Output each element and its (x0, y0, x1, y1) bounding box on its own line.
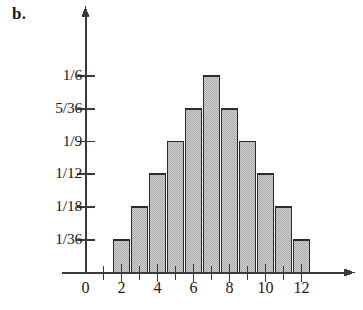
x-axis-tick-label: 0 (71, 279, 101, 297)
x-axis-tick-label: 10 (251, 279, 281, 297)
y-axis-tick-label: 1/36 (55, 231, 82, 246)
histogram-bar (240, 142, 256, 273)
y-axis-tick-label: 5/36 (55, 100, 82, 115)
histogram-bar (258, 174, 274, 272)
histogram-bar (150, 174, 166, 272)
bar-group (114, 76, 310, 273)
x-axis-tick-label: 6 (179, 279, 209, 297)
histogram-bar (168, 142, 184, 273)
y-axis-tick-label: 1/6 (63, 67, 82, 82)
histogram-bar (186, 109, 202, 273)
y-axis-arrow-icon (82, 6, 90, 17)
histogram-bar (204, 76, 220, 273)
y-axis-tick-label: 1/9 (63, 133, 82, 148)
x-axis-arrow-icon (344, 269, 355, 277)
histogram-bar (132, 207, 148, 273)
x-axis-tick-label: 8 (215, 279, 245, 297)
histogram-bar (222, 109, 238, 273)
y-axis-tick-label: 1/18 (55, 198, 82, 213)
x-axis-tick-label: 12 (287, 279, 317, 297)
histogram-chart (0, 0, 363, 310)
y-axis-tick-label: 1/12 (55, 165, 82, 180)
x-axis-tick-label: 2 (107, 279, 137, 297)
x-axis-tick-label: 4 (143, 279, 173, 297)
histogram-bar (276, 207, 292, 273)
